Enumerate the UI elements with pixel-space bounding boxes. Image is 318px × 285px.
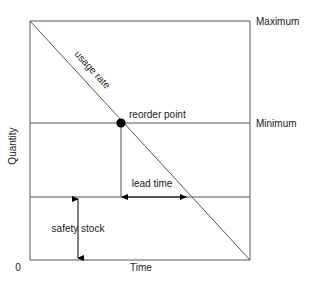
- y-axis-title: Quantity: [7, 127, 18, 164]
- origin-label: 0: [15, 262, 21, 273]
- x-axis-title: Time: [130, 262, 152, 273]
- inventory-chart-svg: Maximum Minimum Quantity Time 0 usage ra…: [0, 0, 318, 285]
- minimum-label: Minimum: [256, 118, 297, 129]
- inventory-diagram: Maximum Minimum Quantity Time 0 usage ra…: [0, 0, 318, 285]
- safety-stock-label: safety stock: [52, 223, 106, 234]
- reorder-point-marker: [116, 118, 125, 127]
- lead-time-label: lead time: [132, 178, 173, 189]
- usage-rate-label: usage rate: [73, 49, 113, 92]
- maximum-label: Maximum: [256, 16, 299, 27]
- reorder-point-label: reorder point: [129, 109, 186, 120]
